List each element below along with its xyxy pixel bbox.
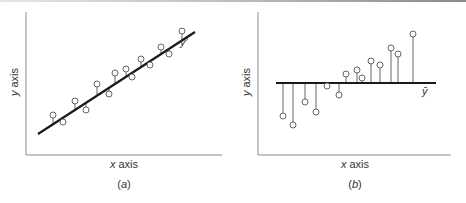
data-point-marker: [313, 109, 319, 115]
data-point-marker: [123, 66, 129, 72]
panel-a-line-label: y′: [180, 36, 188, 48]
data-point-marker: [354, 67, 360, 73]
panel-a-plot: [38, 28, 195, 134]
data-point-marker: [290, 122, 296, 128]
panel-b-plot: [276, 31, 436, 128]
data-point-marker: [302, 99, 308, 105]
regression-line: [38, 32, 195, 134]
panel-a-x-axis-label: x axis: [104, 158, 144, 170]
data-point-marker: [368, 58, 374, 64]
data-point-marker: [94, 81, 100, 87]
data-point-marker: [50, 112, 56, 118]
data-point-marker: [158, 44, 164, 50]
data-point-marker: [106, 91, 112, 97]
data-point-marker: [336, 92, 342, 98]
data-point-marker: [343, 71, 349, 77]
data-point-marker: [410, 31, 416, 37]
data-point-marker: [138, 56, 144, 62]
panel-b-caption: (b): [335, 178, 375, 190]
data-point-marker: [359, 75, 365, 81]
data-point-marker: [129, 74, 135, 80]
data-point-marker: [280, 113, 286, 119]
data-point-marker: [72, 98, 78, 104]
regression-diagram: [0, 0, 466, 203]
panel-b-x-axis-label: x axis: [335, 158, 375, 170]
panel-a-y-axis-label: y axis: [8, 62, 20, 102]
panel-b-line-label: ȳ: [422, 85, 428, 97]
data-point-marker: [324, 83, 330, 89]
data-point-marker: [83, 107, 89, 113]
data-point-marker: [395, 51, 401, 57]
data-point-marker: [388, 45, 394, 51]
panel-a-caption: (a): [104, 178, 144, 190]
data-point-marker: [166, 51, 172, 57]
data-point-marker: [60, 119, 66, 125]
panel-b-y-axis-label: y axis: [240, 62, 252, 102]
data-point-marker: [377, 62, 383, 68]
data-point-marker: [112, 70, 118, 76]
data-point-marker: [147, 62, 153, 68]
data-point-marker: [179, 28, 185, 34]
